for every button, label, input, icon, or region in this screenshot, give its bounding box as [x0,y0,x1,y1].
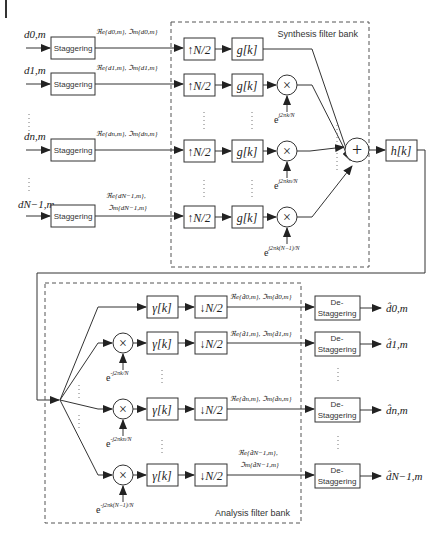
svg-text:γ[k]: γ[k] [152,301,172,315]
svg-text:ℜe{d̂1,m}, ℑm{d̂1,m}: ℜe{d̂1,m}, ℑm{d̂1,m} [230,330,292,338]
output-d1-hat: d̂1,m [386,338,408,350]
svg-text:g[k]: g[k] [237,43,258,57]
modulator-label: ej2πk/N [274,112,295,125]
modulator-label: ej2πk(N−1)/N [264,245,301,258]
multiply-icon: × [119,468,127,483]
multiply-icon: × [119,402,127,417]
svg-text:ℜe{d̂0,m}, ℑm{d̂0,m}: ℜe{d̂0,m}, ℑm{d̂0,m} [230,293,292,301]
svg-text:↑N/2: ↑N/2 [187,211,210,225]
input-d0: d0,m [24,28,46,40]
modulator-label: ej2πkn/N [274,178,298,191]
plus-icon: + [352,140,362,160]
svg-text:Staggering: Staggering [54,44,93,53]
svg-text:↓N/2: ↓N/2 [199,337,222,351]
input-dN-1: dN−1,m [18,198,55,210]
svg-text:Staggering: Staggering [54,80,93,89]
demodulator-label: e-j2πkn/N [106,436,132,449]
svg-text:g[k]: g[k] [237,211,258,225]
svg-text:ℑm{d̂N−1,m}: ℑm{d̂N−1,m} [240,461,279,469]
svg-text:↓N/2: ↓N/2 [199,301,222,315]
svg-text:ℜe{dN−1,m},: ℜe{dN−1,m}, [106,192,146,200]
svg-text:Staggering: Staggering [318,477,357,486]
svg-text:Staggering: Staggering [318,345,357,354]
svg-text:ℜe{d1,m}, ℑm{d1,m}: ℜe{d1,m}, ℑm{d1,m} [96,64,158,72]
output-dN-1-hat: d̂N−1,m [386,470,423,482]
svg-text:De-: De- [331,466,344,475]
svg-text:De-: De- [331,400,344,409]
multiply-icon: × [283,210,291,225]
output-dn-hat: d̂n,m [386,404,408,416]
svg-text:γ[k]: γ[k] [152,469,172,483]
svg-text:g[k]: g[k] [237,145,258,159]
svg-text:↓N/2: ↓N/2 [199,403,222,417]
analysis-title: Analysis filter bank [215,508,291,518]
svg-text:↑N/2: ↑N/2 [187,79,210,93]
demodulator-label: e-j2πk(N−1)/N [96,502,135,515]
multiply-icon: × [119,336,127,351]
svg-text:↑N/2: ↑N/2 [187,145,210,159]
filter-bank-diagram: Synthesis filter bank d0,m Staggering ℜe… [0,0,440,535]
multiply-icon: × [283,78,291,93]
svg-text:De-: De- [331,334,344,343]
svg-text:Staggering: Staggering [54,212,93,221]
channel-to-analysis-wire [37,150,425,400]
analysis-row-last: × e-j2πk(N−1)/N γ[k] ↓N/2 ℜe{d̂N−1,m}, ℑ… [60,400,423,515]
svg-text:ℜe{d̂n,m}, ℑm{d̂n,m}: ℜe{d̂n,m}, ℑm{d̂n,m} [230,395,292,403]
svg-text:γ[k]: γ[k] [152,337,172,351]
svg-text:Staggering: Staggering [54,146,93,155]
svg-text:Staggering: Staggering [318,411,357,420]
svg-text:ℜe{d̂N−1,m},: ℜe{d̂N−1,m}, [238,449,278,457]
svg-text:ℑm{dN−1,m}: ℑm{dN−1,m} [108,204,147,212]
svg-text:↓N/2: ↓N/2 [199,469,222,483]
svg-text:Staggering: Staggering [318,309,357,318]
svg-text:g[k]: g[k] [237,79,258,93]
svg-text:γ[k]: γ[k] [152,403,172,417]
svg-text:h[k]: h[k] [391,144,412,158]
input-d1: d1,m [24,64,46,76]
stagger-output-label: ℜe{d0,m}, ℑm{d0,m} [96,28,158,36]
input-dn: dn,m [24,130,46,142]
svg-text:↑N/2: ↑N/2 [187,43,210,57]
svg-text:ℜe{dn,m}, ℑm{dn,m}: ℜe{dn,m}, ℑm{dn,m} [96,130,158,138]
synthesis-row-last: dN−1,m Staggering ℜe{dN−1,m}, ℑm{dN−1,m}… [18,166,352,258]
multiply-icon: × [283,144,291,159]
synthesis-title: Synthesis filter bank [277,29,358,39]
analysis-row-1: × e-j2πk/N γ[k] ↓N/2 ℜe{d̂1,m}, ℑm{d̂1,m… [60,330,408,400]
output-d0-hat: d̂0,m [386,302,408,314]
synthesis-row-n: dn,m Staggering ℜe{dn,m}, ℑm{dn,m} ↑N/2 … [24,130,344,191]
demodulator-label: e-j2πk/N [106,370,129,383]
svg-text:De-: De- [331,298,344,307]
analysis-row-n: × e-j2πkn/N γ[k] ↓N/2 ℜe{d̂n,m}, ℑm{d̂n,… [60,395,408,449]
